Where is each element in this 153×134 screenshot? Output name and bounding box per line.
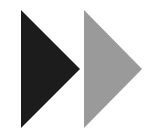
fast-forward-icon — [0, 0, 153, 134]
dark-triangle-icon — [21, 10, 80, 128]
light-triangle-icon — [84, 10, 142, 128]
